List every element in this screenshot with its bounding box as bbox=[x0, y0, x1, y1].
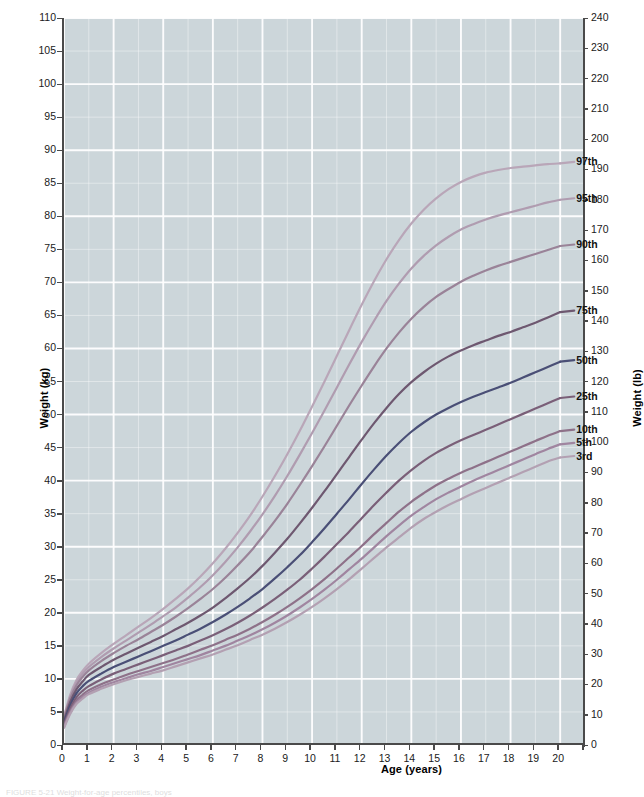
y-axis-left-tick-label: 70 bbox=[18, 276, 56, 287]
y-axis-left-tick-label: 10 bbox=[18, 673, 56, 684]
percentile-curves bbox=[64, 162, 574, 728]
y-axis-left-tick-label: 105 bbox=[18, 45, 56, 56]
percentile-label-75th: 75th bbox=[576, 305, 598, 316]
x-axis-tick-mark bbox=[533, 745, 534, 750]
y-axis-right-tick-label: 10 bbox=[591, 709, 625, 720]
percentile-leader bbox=[560, 245, 574, 247]
x-axis-tick-label: 8 bbox=[248, 753, 272, 764]
x-axis-tick-label: 7 bbox=[224, 753, 248, 764]
percentile-label-97th: 97th bbox=[576, 156, 598, 167]
percentile-label-5th: 5th bbox=[576, 437, 592, 448]
x-axis-tick-label: 15 bbox=[422, 753, 446, 764]
y-axis-left-tick-label: 15 bbox=[18, 640, 56, 651]
y-axis-right-tick-label: 210 bbox=[591, 103, 625, 114]
percentile-label-90th: 90th bbox=[576, 239, 598, 250]
x-axis-tick-mark bbox=[334, 745, 335, 750]
x-axis-tick-label: 9 bbox=[273, 753, 297, 764]
x-axis-tick-label: 2 bbox=[100, 753, 124, 764]
y-axis-right-tick-label: 160 bbox=[591, 254, 625, 265]
x-axis-tick-label: 16 bbox=[447, 753, 471, 764]
y-axis-right-spine bbox=[583, 18, 585, 747]
y-axis-right-tick-label: 120 bbox=[591, 376, 625, 387]
x-axis-tick-mark bbox=[433, 745, 434, 750]
y-axis-right-tick-label: 0 bbox=[591, 739, 625, 750]
y-axis-right-tick-label: 80 bbox=[591, 497, 625, 508]
y-axis-right-tick-label: 170 bbox=[591, 224, 625, 235]
y-axis-left-tick-label: 95 bbox=[18, 111, 56, 122]
y-axis-right-tick-label: 100 bbox=[591, 436, 625, 447]
x-axis-tick-mark bbox=[359, 745, 360, 750]
y-axis-left-tick-label: 75 bbox=[18, 243, 56, 254]
y-axis-right-tick-label: 240 bbox=[591, 12, 625, 23]
y-axis-left-tick-mark bbox=[57, 612, 62, 613]
y-axis-left-tick-label: 40 bbox=[18, 475, 56, 486]
x-axis-tick-mark bbox=[210, 745, 211, 750]
y-axis-left-tick-label: 35 bbox=[18, 508, 56, 519]
y-axis-left-tick-label: 5 bbox=[18, 706, 56, 717]
x-axis-tick-mark bbox=[557, 745, 558, 750]
plot-area bbox=[62, 18, 583, 745]
percentile-leader bbox=[560, 443, 574, 445]
x-axis-tick-mark bbox=[285, 745, 286, 750]
x-axis-tick-mark bbox=[161, 745, 162, 750]
percentile-label-3rd: 3rd bbox=[576, 451, 592, 462]
y-axis-left-tick-mark bbox=[57, 348, 62, 349]
y-axis-left-tick-label: 45 bbox=[18, 442, 56, 453]
y-axis-left-tick-mark bbox=[57, 513, 62, 514]
y-axis-left-tick-mark bbox=[57, 414, 62, 415]
x-axis-tick-label: 18 bbox=[497, 753, 521, 764]
y-axis-left-tick-mark bbox=[57, 711, 62, 712]
x-axis-tick-label: 5 bbox=[174, 753, 198, 764]
y-axis-left-tick-label: 100 bbox=[18, 78, 56, 89]
y-axis-left-tick-mark bbox=[57, 150, 62, 151]
y-axis-left-tick-mark bbox=[57, 18, 62, 19]
y-axis-left-tick-mark bbox=[57, 84, 62, 85]
y-axis-left-tick-mark bbox=[57, 678, 62, 679]
x-axis-tick-mark bbox=[309, 745, 310, 750]
y-axis-right-tick-label: 70 bbox=[591, 527, 625, 538]
x-axis-tick-mark bbox=[86, 745, 87, 750]
y-axis-right-tick-label: 50 bbox=[591, 588, 625, 599]
y-axis-left-tick-label: 30 bbox=[18, 541, 56, 552]
y-axis-left-tick-label: 0 bbox=[18, 739, 56, 750]
y-axis-left-tick-label: 110 bbox=[18, 12, 56, 23]
y-axis-right-tick-label: 110 bbox=[591, 406, 625, 417]
y-axis-left-tick-mark bbox=[57, 216, 62, 217]
y-axis-left-tick-mark bbox=[57, 117, 62, 118]
percentile-label-95th: 95th bbox=[576, 193, 598, 204]
y-axis-left-tick-label: 20 bbox=[18, 607, 56, 618]
y-axis-right-tick-label: 30 bbox=[591, 648, 625, 659]
x-axis-tick-mark bbox=[61, 745, 62, 750]
y-axis-left-title: Weight (kg) bbox=[38, 368, 50, 429]
y-axis-right-tick-label: 150 bbox=[591, 285, 625, 296]
y-axis-right-tick-label: 90 bbox=[591, 466, 625, 477]
y-axis-left-tick-label: 60 bbox=[18, 342, 56, 353]
y-axis-right-tick-label: 230 bbox=[591, 42, 625, 53]
x-axis-tick-mark bbox=[185, 745, 186, 750]
percentile-label-50th: 50th bbox=[576, 355, 598, 366]
x-axis-tick-mark bbox=[458, 745, 459, 750]
y-axis-right-tick-label: 140 bbox=[591, 315, 625, 326]
percentile-leader bbox=[560, 360, 574, 362]
y-axis-left-tick-label: 80 bbox=[18, 210, 56, 221]
y-axis-left-tick-mark bbox=[57, 183, 62, 184]
x-axis-title-text: Age (years) bbox=[381, 763, 442, 775]
y-axis-right-tick-label: 20 bbox=[591, 678, 625, 689]
y-axis-left-tick-mark bbox=[57, 51, 62, 52]
y-axis-left-tick-mark bbox=[57, 480, 62, 481]
x-axis-tick-label: 14 bbox=[397, 753, 421, 764]
x-axis-tick-label: 1 bbox=[75, 753, 99, 764]
x-axis-tick-mark bbox=[260, 745, 261, 750]
y-axis-right-title: Weight (lb) bbox=[631, 369, 643, 427]
percentile-leader bbox=[560, 311, 574, 313]
x-axis-tick-mark bbox=[409, 745, 410, 750]
y-axis-left-tick-label: 65 bbox=[18, 309, 56, 320]
y-axis-left-tick-label: 90 bbox=[18, 144, 56, 155]
percentile-leader bbox=[560, 162, 574, 164]
x-axis-tick-label: 3 bbox=[124, 753, 148, 764]
x-axis-tick-mark bbox=[384, 745, 385, 750]
x-axis-tick-label: 19 bbox=[521, 753, 545, 764]
y-axis-left-tick-mark bbox=[57, 249, 62, 250]
y-axis-left-tick-label: 85 bbox=[18, 177, 56, 188]
